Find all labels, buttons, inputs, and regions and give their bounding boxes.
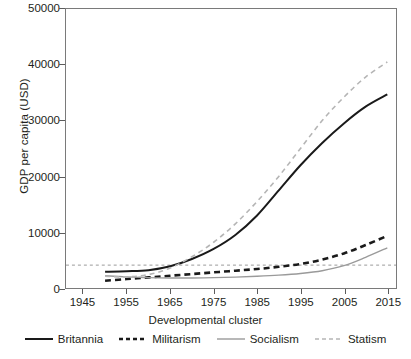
legend-swatch-statism bbox=[315, 334, 343, 344]
x-tick-mark bbox=[214, 289, 215, 294]
x-tick-mark bbox=[257, 289, 258, 294]
y-tick-mark bbox=[59, 289, 65, 290]
series-line-militarism bbox=[105, 236, 387, 281]
x-tick-mark bbox=[170, 289, 171, 294]
series-canvas bbox=[66, 9, 396, 288]
legend-label: Socialism bbox=[250, 333, 299, 345]
legend-item-socialism[interactable]: Socialism bbox=[217, 333, 299, 345]
x-tick-mark bbox=[345, 289, 346, 294]
legend-item-britannia[interactable]: Britannia bbox=[25, 333, 103, 345]
x-tick-mark bbox=[388, 289, 389, 294]
series-line-statism bbox=[105, 62, 387, 277]
legend-swatch-socialism bbox=[217, 334, 245, 344]
legend-swatch-britannia bbox=[25, 334, 53, 344]
y-tick-label: 0 bbox=[0, 283, 60, 295]
y-tick-label: 10000 bbox=[0, 227, 60, 239]
legend-label: Militarism bbox=[152, 333, 201, 345]
chart-legend: BritanniaMilitarismSocialismStatism bbox=[0, 333, 411, 345]
x-tick-label: 2015 bbox=[358, 296, 411, 308]
x-axis-title: Developmental cluster bbox=[0, 314, 411, 326]
plot-area bbox=[65, 8, 397, 289]
series-line-britannia bbox=[105, 94, 387, 271]
y-tick-label: 20000 bbox=[0, 171, 60, 183]
chart-root: GDP per capita (USD) 0100002000030000400… bbox=[0, 0, 411, 359]
x-tick-mark bbox=[126, 289, 127, 294]
x-tick-mark bbox=[82, 289, 83, 294]
legend-label: Britannia bbox=[58, 333, 103, 345]
x-tick-mark bbox=[301, 289, 302, 294]
legend-item-statism[interactable]: Statism bbox=[315, 333, 386, 345]
y-tick-label: 40000 bbox=[0, 58, 60, 70]
legend-label: Statism bbox=[348, 333, 386, 345]
y-tick-label: 50000 bbox=[0, 2, 60, 14]
legend-item-militarism[interactable]: Militarism bbox=[119, 333, 201, 345]
legend-swatch-militarism bbox=[119, 334, 147, 344]
y-tick-label: 30000 bbox=[0, 114, 60, 126]
